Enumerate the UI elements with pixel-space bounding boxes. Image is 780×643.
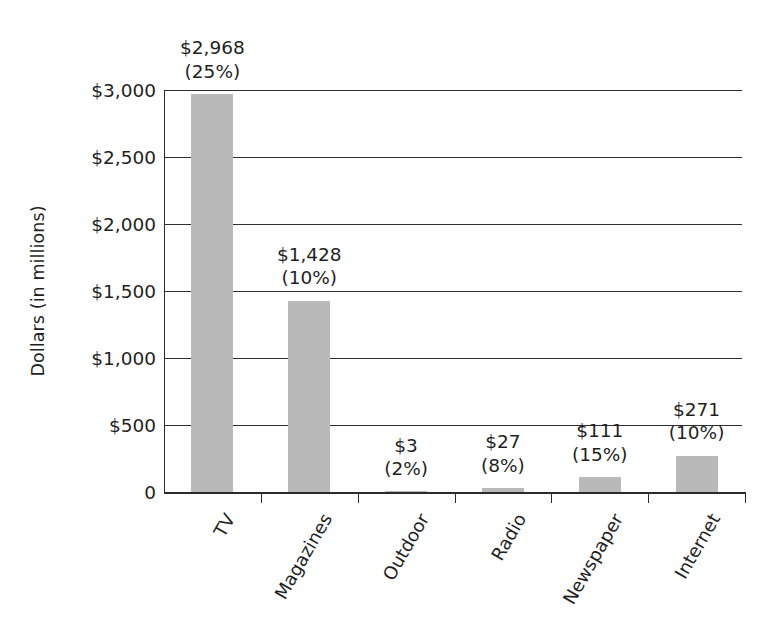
x-axis-tick-mark	[745, 492, 746, 503]
x-axis-tick-mark	[261, 492, 262, 503]
x-axis-tick-mark	[455, 492, 456, 503]
y-axis-tick-label: 0	[56, 482, 156, 503]
data-label-value: $27	[485, 431, 520, 452]
x-axis-tick-mark	[551, 492, 552, 503]
x-axis-tick-mark	[358, 492, 359, 503]
gridline	[164, 90, 742, 91]
x-axis-category-text: TV	[210, 508, 241, 540]
y-axis-line	[164, 90, 165, 494]
bar-tv[interactable]	[191, 94, 233, 492]
y-axis-tick-label: $500	[56, 415, 156, 436]
data-label-percent: (10%)	[277, 266, 342, 289]
y-axis-tick-label: $1,500	[56, 281, 156, 302]
y-axis-tick-label: $2,500	[56, 147, 156, 168]
x-axis-category-text: Radio	[487, 508, 531, 564]
data-label-value: $1,428	[277, 244, 342, 265]
data-label-magazines: $1,428(10%)	[277, 243, 342, 290]
gridline	[164, 425, 742, 426]
data-label-newspaper: $111(15%)	[572, 419, 628, 466]
bar-internet[interactable]	[676, 456, 718, 492]
x-axis-category-text: Magazines	[271, 508, 338, 603]
data-label-tv: $2,968(25%)	[180, 36, 245, 83]
data-label-percent: (15%)	[572, 443, 628, 466]
data-label-outdoor: $3(2%)	[384, 434, 428, 481]
bar-chart: Dollars (in millions) $3,000$2,500$2,000…	[0, 0, 780, 643]
bar-magazines[interactable]	[288, 301, 330, 492]
gridline	[164, 224, 742, 225]
y-axis-tick-label: $3,000	[56, 80, 156, 101]
x-axis-category-text: Outdoor	[378, 508, 434, 584]
data-label-internet: $271(10%)	[669, 398, 725, 445]
data-label-value: $271	[673, 399, 720, 420]
data-label-value: $111	[576, 420, 623, 441]
y-axis-tick-label: $2,000	[56, 214, 156, 235]
data-label-radio: $27(8%)	[481, 430, 525, 477]
data-label-value: $3	[394, 435, 418, 456]
x-axis-tick-mark	[648, 492, 649, 503]
gridline	[164, 291, 742, 292]
gridline	[164, 157, 742, 158]
data-label-percent: (2%)	[384, 457, 428, 480]
x-axis-category-text: Newspaper	[558, 508, 628, 608]
bar-newspaper[interactable]	[579, 477, 621, 492]
data-label-percent: (25%)	[180, 60, 245, 83]
y-axis-tick-group: $3,000$2,500$2,000$1,500$1,000$5000	[48, 0, 156, 643]
data-label-percent: (8%)	[481, 454, 525, 477]
gridline	[164, 358, 742, 359]
data-label-value: $2,968	[180, 37, 245, 58]
y-axis-tick-label: $1,000	[56, 348, 156, 369]
x-axis-category-text: Internet	[670, 508, 725, 582]
